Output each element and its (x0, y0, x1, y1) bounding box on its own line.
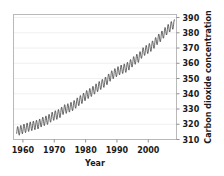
x-tick-label: 2000 (137, 146, 160, 155)
y-tick-label: 310 (183, 136, 200, 145)
y-axis-title: Carbon dioxide concentration (204, 10, 213, 144)
co2-concentration-chart: 310320330340350360370380390 196019701980… (0, 0, 224, 176)
y-tick-label: 360 (183, 59, 200, 68)
y-tick-label: 330 (183, 105, 200, 114)
y-tick-label: 320 (183, 120, 200, 129)
y-tick-label: 380 (183, 29, 200, 38)
y-tick-label-group: 310320330340350360370380390 (183, 14, 200, 145)
x-tick-label: 1980 (74, 146, 97, 155)
x-tick-label: 1970 (43, 146, 66, 155)
x-tick-label: 1990 (106, 146, 129, 155)
y-tick-label: 340 (183, 90, 200, 99)
y-tick-label: 370 (183, 44, 200, 53)
x-tick-label-group: 19601970198019902000 (12, 146, 160, 155)
y-tick-label: 350 (183, 75, 200, 84)
y-tick-label: 390 (183, 14, 200, 23)
x-axis-title: Year (84, 159, 105, 168)
x-tick-label: 1960 (12, 146, 35, 155)
chart-canvas: 310320330340350360370380390 196019701980… (0, 0, 224, 176)
